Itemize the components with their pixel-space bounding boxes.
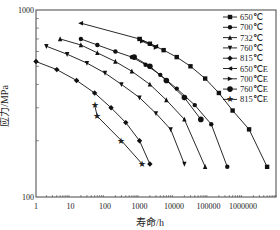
series-650℃E — [78, 21, 158, 48]
series-700℃E — [140, 39, 159, 50]
x-tick-label: 10000 — [164, 202, 184, 211]
x-tick-label: 1000000 — [229, 202, 257, 211]
legend-label: 650℃ — [240, 12, 263, 22]
legend-label: 650℃E — [240, 64, 268, 74]
chart: 11010010001000010000010000001001000 ★★★★… — [0, 0, 280, 230]
svg-text:★: ★ — [117, 136, 125, 146]
legend-label: 732℃ — [240, 33, 263, 43]
x-tick-label: 1000 — [132, 202, 148, 211]
x-tick-label: 10 — [67, 202, 75, 211]
svg-text:★: ★ — [93, 111, 101, 121]
stress-life-chart: 11010010001000010000010000001001000 ★★★★… — [0, 0, 280, 230]
svg-text:★: ★ — [226, 94, 234, 104]
legend-label: 760℃E — [240, 84, 268, 94]
x-tick-label: 100000 — [197, 202, 221, 211]
y-axis-label: 应力/MPa — [0, 85, 10, 127]
legend-label: 700℃ — [240, 22, 263, 32]
x-tick-label: 100 — [99, 202, 111, 211]
x-tick-label: 1 — [34, 202, 38, 211]
y-tick-label: 100 — [22, 193, 34, 202]
y-tick-label: 1000 — [18, 6, 34, 15]
svg-text:★: ★ — [91, 100, 99, 110]
legend-label: 700℃E — [240, 74, 268, 84]
legend-label: 815℃E — [240, 94, 268, 104]
svg-text:★: ★ — [138, 159, 146, 169]
series-700℃ — [79, 37, 230, 169]
series-815℃E: ★★★★ — [91, 100, 147, 169]
legend-label: 760℃ — [240, 43, 263, 53]
legend: 650℃700℃732℃760℃815℃650℃E700℃E760℃E★815℃… — [223, 12, 268, 104]
legend-label: 815℃ — [240, 53, 263, 63]
series-760℃E — [131, 54, 203, 122]
x-axis-label: 寿命/h — [136, 216, 164, 228]
axis-ticks: 11010010001000010000010000001001000 — [18, 6, 276, 211]
